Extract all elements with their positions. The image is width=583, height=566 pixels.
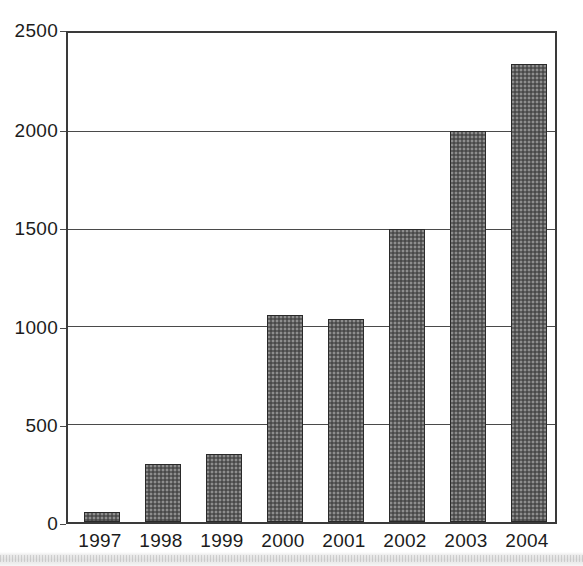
x-tick-label-2002: 2002 [370,530,440,552]
y-tick-label-2000: 2000 [0,120,58,142]
bar-2004 [511,64,547,522]
x-tick-label-1997: 1997 [65,530,135,552]
y-tick-label-2500: 2500 [0,20,58,42]
scan-artifact-strip [0,552,583,566]
bar-1999 [206,454,242,522]
bar-2002 [389,229,425,522]
bar-chart-figure: 2500 2000 1500 1000 500 0 1997 1998 1999… [0,0,583,566]
bar-2003 [450,131,486,522]
y-tick-label-500: 500 [0,415,58,437]
x-tick-label-2001: 2001 [309,530,379,552]
x-tick-label-1998: 1998 [126,530,196,552]
bar-1998 [145,464,181,522]
bar-2001 [328,319,364,522]
y-tick-label-1000: 1000 [0,317,58,339]
plot-area [66,31,557,524]
x-tick-label-2003: 2003 [431,530,501,552]
y-tick-mark-0 [60,524,66,525]
y-tick-label-0: 0 [0,513,58,535]
x-tick-label-2000: 2000 [248,530,318,552]
y-tick-label-1500: 1500 [0,218,58,240]
x-tick-label-1999: 1999 [187,530,257,552]
bar-1997 [84,512,120,522]
bar-2000 [267,315,303,522]
x-tick-label-2004: 2004 [492,530,562,552]
